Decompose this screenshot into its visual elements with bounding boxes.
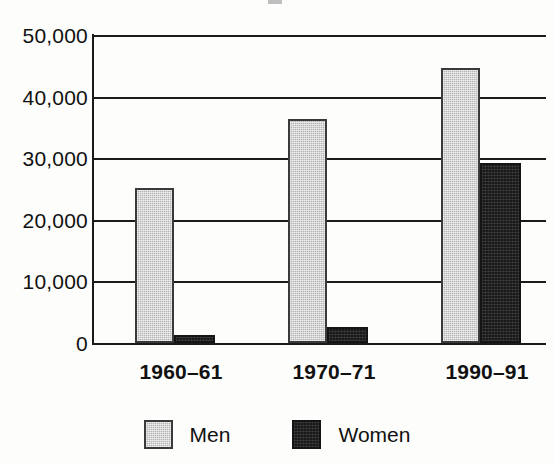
y-tick-label-10000: 10,000 (0, 271, 88, 292)
y-tick-label-30000: 30,000 (0, 148, 88, 169)
bar-chart-figure: 50,000 40,000 30,000 20,000 10,000 0 196… (0, 0, 554, 464)
x-tick-label-1970-71: 1970–71 (249, 361, 419, 383)
gridline-0-baseline (94, 343, 546, 345)
bar-men-1960-61[interactable] (135, 188, 174, 343)
plot-area (94, 35, 546, 343)
bar-men-1970-71[interactable] (288, 119, 327, 343)
y-tick-label-20000: 20,000 (0, 210, 88, 231)
scan-artifact-mark (268, 0, 282, 4)
chart-legend: Men Women (0, 414, 554, 454)
black-square-swatch-icon (292, 420, 321, 449)
bar-women-1990-91[interactable] (480, 163, 521, 343)
legend-item-men[interactable]: Men (144, 420, 231, 449)
x-tick-label-1960-61: 1960–61 (96, 361, 266, 383)
y-tick-label-0: 0 (0, 333, 88, 354)
legend-label-men: Men (190, 424, 231, 445)
x-tick-label-1990-91: 1990–91 (402, 361, 554, 383)
gray-square-swatch-icon (144, 420, 173, 449)
bar-women-1960-61[interactable] (174, 335, 215, 343)
bar-women-1970-71[interactable] (327, 327, 368, 343)
gridline-50000 (94, 35, 546, 37)
bar-men-1990-91[interactable] (441, 68, 480, 343)
legend-item-women[interactable]: Women (292, 420, 410, 449)
y-tick-label-50000: 50,000 (0, 25, 88, 46)
y-tick-label-40000: 40,000 (0, 87, 88, 108)
legend-label-women: Women (338, 424, 410, 445)
